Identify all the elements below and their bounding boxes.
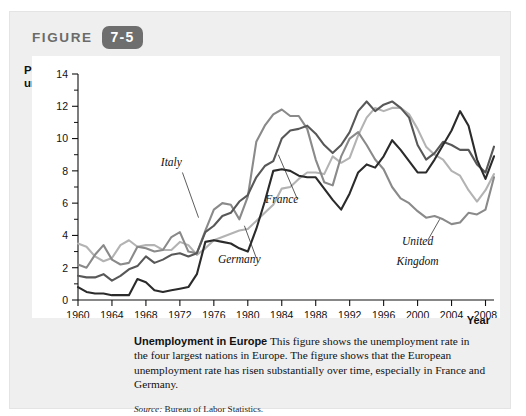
figure-word: FIGURE bbox=[32, 30, 93, 45]
x-tick-label: 1992 bbox=[338, 309, 362, 318]
x-tick-label: 1984 bbox=[270, 309, 294, 318]
x-tick-label: 1996 bbox=[372, 309, 396, 318]
x-tick-label: 1960 bbox=[66, 309, 90, 318]
series-line-france bbox=[78, 101, 494, 280]
y-tick-label: 12 bbox=[56, 100, 68, 112]
caption-lead: Unemployment in Europe bbox=[134, 335, 267, 347]
x-tick-label: 1988 bbox=[304, 309, 328, 318]
x-axis-title: Year bbox=[467, 314, 490, 326]
figure-card: FIGURE 7-5 Percent unemployed 0246810121… bbox=[10, 12, 510, 408]
x-tick-label: 1964 bbox=[100, 309, 124, 318]
y-tick-label: 14 bbox=[56, 68, 68, 80]
y-tick-label: 0 bbox=[62, 294, 68, 306]
figure-caption: Unemployment in Europe This figure shows… bbox=[134, 334, 486, 392]
annotation-leader-line bbox=[182, 172, 198, 217]
figure-source: Source: Bureau of Labor Statistics. bbox=[134, 404, 263, 414]
series-label-united-kingdom-line2: Kingdom bbox=[396, 255, 439, 268]
figure-number-badge: 7-5 bbox=[102, 26, 144, 49]
x-tick-label: 1976 bbox=[202, 309, 226, 318]
x-tick-label: 1972 bbox=[168, 309, 192, 318]
unemployment-line-chart: 0246810121419601964196819721976198019841… bbox=[32, 56, 500, 318]
y-tick-label: 4 bbox=[62, 229, 68, 241]
plot-panel: 0246810121419601964196819721976198019841… bbox=[32, 56, 500, 318]
x-tick-label: 1968 bbox=[134, 309, 158, 318]
y-tick-label: 2 bbox=[62, 262, 68, 274]
y-tick-label: 6 bbox=[62, 197, 68, 209]
series-label-germany: Germany bbox=[218, 253, 262, 266]
x-tick-label: 1980 bbox=[236, 309, 260, 318]
source-prefix: Source: bbox=[134, 404, 162, 414]
source-text: Bureau of Labor Statistics. bbox=[165, 404, 264, 414]
series-label-italy: Italy bbox=[160, 156, 183, 169]
figure-header: FIGURE 7-5 bbox=[32, 26, 143, 49]
y-tick-label: 10 bbox=[56, 132, 68, 144]
x-tick-label: 2004 bbox=[440, 309, 464, 318]
y-tick-label: 8 bbox=[62, 165, 68, 177]
series-label-united-kingdom: United bbox=[402, 235, 434, 247]
x-tick-label: 2000 bbox=[406, 309, 430, 318]
series-label-france: France bbox=[264, 193, 298, 205]
